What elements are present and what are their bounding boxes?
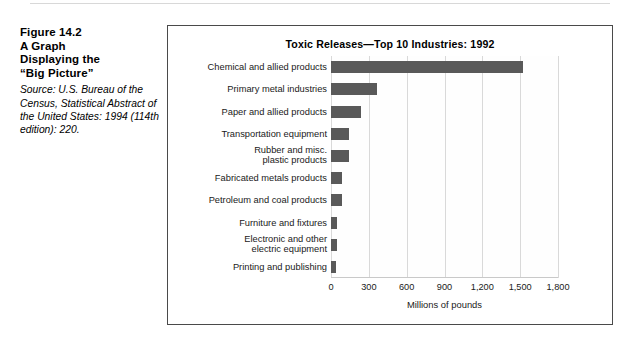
category-label: Chemical and allied products	[157, 62, 327, 73]
category-label: Furniture and fixtures	[157, 217, 327, 228]
x-tick-label: 0	[311, 282, 351, 292]
category-label: Primary metal industries	[157, 84, 327, 95]
x-tick-label: 1,800	[538, 282, 578, 292]
figure-frame: Toxic Releases—Top 10 Industries: 1992 C…	[167, 25, 613, 325]
category-label: Paper and allied products	[157, 106, 327, 117]
bar-row: Transportation equipment	[331, 128, 349, 140]
gridline-1500	[520, 56, 521, 278]
bar	[331, 83, 377, 95]
x-tick-label: 1,500	[500, 282, 540, 292]
caption-title-line-2: A Graph	[20, 40, 162, 54]
bar	[331, 128, 349, 140]
category-label: Petroleum and coal products	[157, 195, 327, 206]
page-top-rule	[30, 3, 610, 4]
bar-row: Petroleum and coal products	[331, 194, 342, 206]
gridline-1800	[558, 56, 559, 278]
bar-row: Primary metal industries	[331, 83, 377, 95]
figure-caption: Figure 14.2 A Graph Displaying the “Big …	[20, 26, 162, 137]
figure-page: Figure 14.2 A Graph Displaying the “Big …	[0, 0, 632, 342]
x-tick-label: 1,200	[462, 282, 502, 292]
bar-row: Rubber and misc. plastic products	[331, 150, 349, 162]
bar	[331, 106, 361, 118]
category-label: Fabricated metals products	[157, 173, 327, 184]
bar	[331, 239, 337, 251]
bar	[331, 150, 349, 162]
caption-title-line-1: Figure 14.2	[20, 26, 162, 40]
chart-plot-area: Chemical and allied productsPrimary meta…	[331, 56, 558, 278]
category-label: Rubber and misc. plastic products	[157, 145, 327, 166]
bar	[331, 61, 523, 73]
bar-row: Electronic and other electric equipment	[331, 239, 337, 251]
bar-row: Chemical and allied products	[331, 61, 523, 73]
figure-caption-source: Source: U.S. Bureau of the Census, Stati…	[20, 83, 162, 136]
bar-row: Paper and allied products	[331, 106, 361, 118]
figure-caption-title: Figure 14.2 A Graph Displaying the “Big …	[20, 26, 162, 80]
x-tick-label: 900	[425, 282, 465, 292]
plot-baseline	[331, 277, 558, 278]
caption-title-line-3: Displaying the	[20, 53, 162, 67]
x-tick-label: 300	[349, 282, 389, 292]
chart-title: Toxic Releases—Top 10 Industries: 1992	[168, 38, 612, 50]
gridline-1200	[482, 56, 483, 278]
gridline-600	[407, 56, 408, 278]
category-label: Transportation equipment	[157, 128, 327, 139]
bar	[331, 217, 337, 229]
bar	[331, 194, 342, 206]
gridline-900	[445, 56, 446, 278]
caption-title-line-4: “Big Picture”	[20, 67, 162, 81]
category-label: Electronic and other electric equipment	[157, 234, 327, 255]
category-label: Printing and publishing	[157, 262, 327, 273]
x-tick-label: 600	[387, 282, 427, 292]
bar	[331, 172, 342, 184]
bar	[331, 261, 336, 273]
bar-row: Furniture and fixtures	[331, 217, 337, 229]
bar-row: Printing and publishing	[331, 261, 336, 273]
x-axis-title: Millions of pounds	[331, 299, 558, 310]
bar-row: Fabricated metals products	[331, 172, 342, 184]
